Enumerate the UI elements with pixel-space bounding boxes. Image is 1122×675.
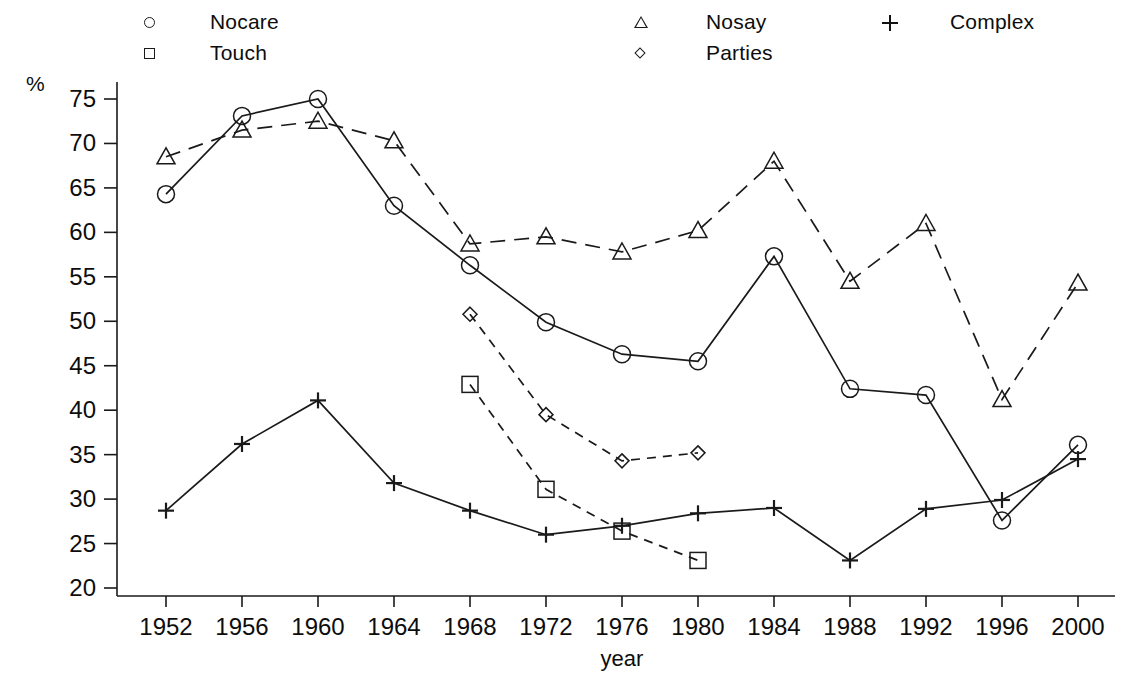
y-tick-label: 50 <box>40 309 96 333</box>
y-tick-label: 70 <box>40 131 96 155</box>
x-tick-label: 1984 <box>739 615 809 639</box>
y-tick-label: 55 <box>40 265 96 289</box>
x-axis-ticks <box>166 596 1078 607</box>
series-nocare <box>158 91 1087 529</box>
x-tick-label: 1968 <box>435 615 505 639</box>
x-tick-label: 1992 <box>891 615 961 639</box>
x-tick-label: 1996 <box>967 615 1037 639</box>
x-tick-label: 1980 <box>663 615 733 639</box>
y-tick-label: 75 <box>40 87 96 111</box>
x-tick-label: 2000 <box>1043 615 1113 639</box>
x-tick-label: 1988 <box>815 615 885 639</box>
x-tick-label: 1976 <box>587 615 657 639</box>
y-tick-label: 35 <box>40 443 96 467</box>
x-tick-label: 1972 <box>511 615 581 639</box>
plot-area <box>0 0 1122 675</box>
axis-lines <box>117 82 1115 596</box>
y-tick-label: 65 <box>40 176 96 200</box>
y-tick-label: 40 <box>40 398 96 422</box>
series-touch <box>462 376 706 568</box>
y-tick-label: 20 <box>40 576 96 600</box>
x-tick-label: 1956 <box>207 615 277 639</box>
y-tick-label: 25 <box>40 532 96 556</box>
y-axis-ticks <box>104 99 117 588</box>
series-complex <box>158 392 1086 568</box>
x-tick-label: 1952 <box>131 615 201 639</box>
y-tick-label: 30 <box>40 487 96 511</box>
x-axis-title: year <box>562 646 682 672</box>
series-parties <box>463 307 705 468</box>
x-tick-label: 1960 <box>283 615 353 639</box>
chart-container: Nocare Touch Nosay Parties Complex <box>0 0 1122 675</box>
y-tick-label: 45 <box>40 354 96 378</box>
y-tick-label: 60 <box>40 220 96 244</box>
x-tick-label: 1964 <box>359 615 429 639</box>
